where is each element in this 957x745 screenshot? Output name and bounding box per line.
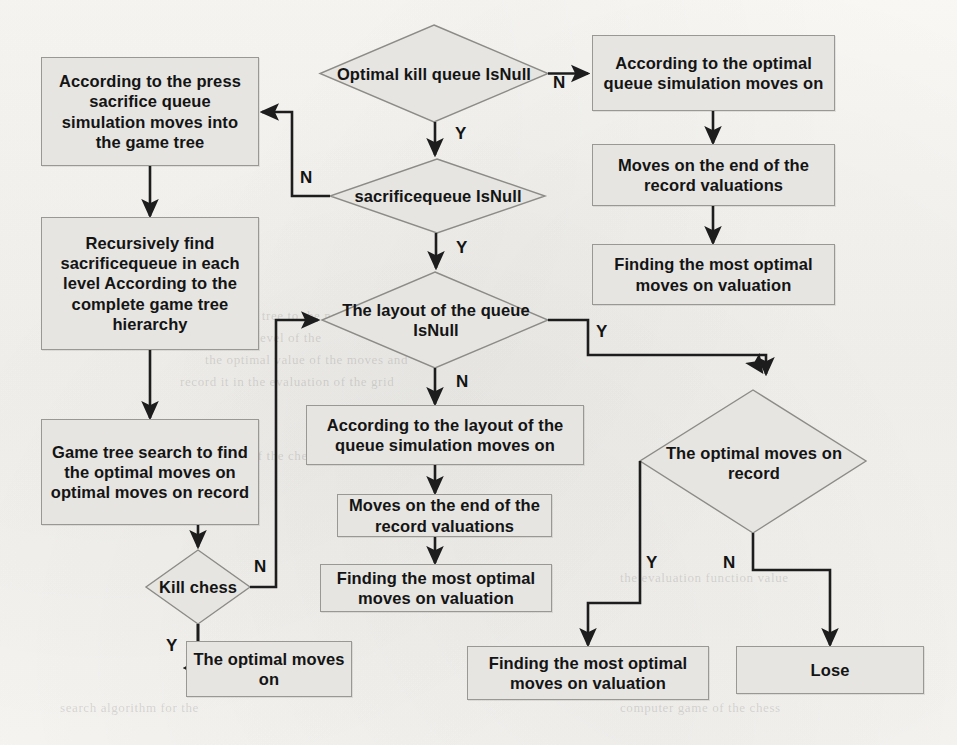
- edge-label-optimal-kill-queue-yes: Y: [455, 124, 466, 144]
- finding-optimal-bottom-box[interactable]: Finding the most optimal moves on valuat…: [467, 646, 709, 700]
- edge-label-optimal-record-yes: Y: [646, 553, 657, 573]
- edge-label-kill-chess-yes: Y: [166, 636, 177, 656]
- edge-label-layout-queue-yes: Y: [596, 322, 607, 342]
- edge-label-optimal-record-no: N: [723, 553, 735, 573]
- recursive-find-box[interactable]: Recursively find sacrificequeue in each …: [41, 217, 259, 350]
- wire-record-no: [753, 533, 830, 645]
- layout-queue-diamond-label[interactable]: The layout of the queue IsNull: [340, 294, 532, 346]
- layout-sim-box[interactable]: According to the layout of the queue sim…: [306, 405, 584, 465]
- edge-label-sacrificequeue-no: N: [300, 168, 312, 188]
- sacrificequeue-diamond-label[interactable]: sacrificequeue IsNull: [345, 170, 531, 222]
- wire-record-yes: [588, 461, 640, 645]
- moves-end-record-mid-box[interactable]: Moves on the end of the record valuation…: [337, 494, 552, 537]
- optimal-kill-queue-diamond-label[interactable]: Optimal kill queue IsNull: [332, 46, 536, 102]
- lose-box[interactable]: Lose: [736, 646, 924, 694]
- edge-label-layout-queue-no: N: [456, 372, 468, 392]
- finding-optimal-mid-box[interactable]: Finding the most optimal moves on valuat…: [320, 564, 552, 612]
- finding-optimal-right-box[interactable]: Finding the most optimal moves on valuat…: [592, 244, 835, 305]
- edge-label-sacrificequeue-yes: Y: [456, 238, 467, 258]
- press-sacrifice-box[interactable]: According to the press sacrifice queue s…: [41, 57, 259, 166]
- wire-layout-yes-run: [548, 320, 766, 374]
- optimal-queue-sim-box[interactable]: According to the optimal queue simulatio…: [592, 35, 835, 111]
- optimal-moves-record-diamond-label[interactable]: The optimal moves on record: [660, 437, 848, 489]
- edge-label-kill-chess-no: N: [254, 557, 266, 577]
- game-tree-search-box[interactable]: Game tree search to find the optimal mov…: [41, 419, 259, 525]
- flowchart-canvas: of the game tree to the node for the sea…: [0, 0, 957, 745]
- moves-end-record-right-box[interactable]: Moves on the end of the record valuation…: [592, 144, 835, 206]
- kill-chess-diamond-label[interactable]: Kill chess: [146, 567, 250, 607]
- optimal-moves-on-box[interactable]: The optimal moves on: [186, 641, 352, 697]
- wire-sacrificequeue-no: [262, 112, 330, 196]
- edge-label-optimal-kill-queue-no: N: [553, 73, 565, 93]
